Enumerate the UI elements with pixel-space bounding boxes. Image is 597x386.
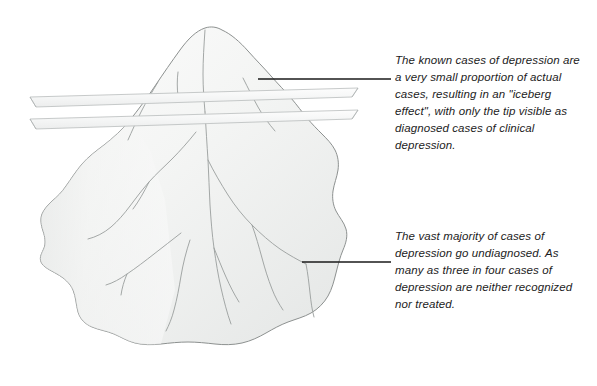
callout-text-top: The known cases of depression are a very… — [395, 52, 585, 154]
callout-text-bottom: The vast majority of cases of depression… — [395, 228, 585, 313]
